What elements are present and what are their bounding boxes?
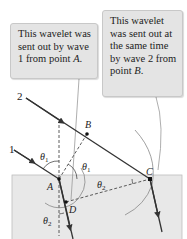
ray-2-arrow bbox=[26, 98, 62, 122]
point-b-label: B bbox=[85, 119, 91, 130]
point-d bbox=[64, 200, 68, 204]
point-b bbox=[85, 132, 89, 136]
theta1-label-incident: θ1 bbox=[40, 151, 49, 164]
point-c-label: C bbox=[146, 166, 153, 177]
callout-wavelet-b: This wavelet was sent out at the same ti… bbox=[102, 10, 183, 97]
callout-wavelet-a: This wavelet was sent out by wave 1 from… bbox=[10, 23, 98, 79]
ray-2-label: 2 bbox=[17, 90, 23, 102]
point-d-label: D bbox=[68, 204, 77, 215]
point-a-label: A bbox=[46, 181, 54, 192]
point-c bbox=[148, 177, 152, 181]
callout-period: . bbox=[80, 53, 83, 64]
refraction-diagram: 1 2 A B C D θ1 θ1 θ2 θ2 This wavelet was… bbox=[0, 0, 187, 239]
point-a bbox=[57, 177, 61, 181]
ray-1-arrow bbox=[14, 150, 33, 162]
ray-1-label: 1 bbox=[9, 143, 15, 155]
callout2-pointer bbox=[156, 97, 161, 170]
callout-period: . bbox=[141, 65, 144, 76]
